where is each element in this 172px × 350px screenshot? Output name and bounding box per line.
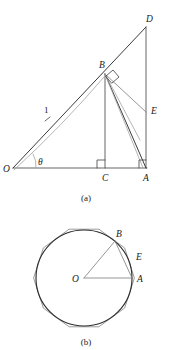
figure-root: O C A B D E 1 θ (a) O A B (0, 0, 172, 350)
label-radius-one: 1 (44, 105, 49, 115)
segment-BA (105, 74, 146, 168)
segment-BA-chord-b (115, 241, 132, 278)
label-point-O-a: O (3, 164, 10, 174)
segment-B-fan-2 (105, 74, 140, 140)
caption-panel-a: (a) (81, 193, 91, 203)
caption-panel-b: (b) (81, 337, 92, 347)
label-point-E-b: E (135, 252, 142, 262)
tick-on-OB (45, 117, 50, 121)
label-point-C-a: C (102, 173, 109, 183)
angle-arc-theta (33, 154, 36, 168)
label-point-B-b: B (116, 229, 122, 239)
right-angle-marker-C (97, 160, 105, 168)
segment-OB-radius-b (84, 241, 115, 278)
label-point-B-a: B (99, 60, 105, 70)
label-angle-theta: θ (38, 157, 43, 167)
segment-B-fan-1 (105, 74, 143, 168)
label-point-A-a: A (142, 173, 149, 183)
panel-a: O C A B D E 1 θ (a) (3, 14, 157, 203)
label-point-E-a: E (150, 106, 157, 116)
segment-OB-arc (14, 77, 104, 170)
label-point-A-b: A (136, 274, 143, 284)
label-point-D-a: D (145, 14, 153, 24)
segment-OD-hypotenuse (13, 27, 146, 168)
geometry-figure: O C A B D E 1 θ (a) O A B (0, 0, 172, 350)
label-point-O-b: O (72, 274, 79, 284)
panel-b: O A B E (b) (34, 229, 143, 347)
segment-BE (105, 74, 146, 112)
